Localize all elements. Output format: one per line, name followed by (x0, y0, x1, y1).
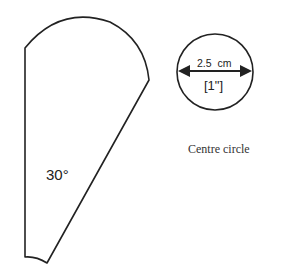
sector-pattern-piece: 30° (25, 17, 149, 263)
dimension-in-label: [1"] (204, 78, 223, 93)
centre-circle-diagram: 2.5 cm [1"] Centre circle (177, 34, 253, 156)
diagram-canvas: 30° 2.5 cm [1"] Centre circle (0, 0, 291, 279)
dimension-cm-label: 2.5 cm (197, 57, 232, 69)
sector-outline (25, 17, 149, 263)
angle-label: 30° (46, 166, 69, 183)
arrow-left-icon (178, 65, 190, 77)
caption-label: Centre circle (188, 142, 250, 156)
arrow-right-icon (240, 65, 252, 77)
